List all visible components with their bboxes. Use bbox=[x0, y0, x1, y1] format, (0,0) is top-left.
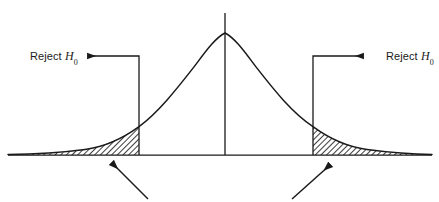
reject-h0-label-left: Reject H0 bbox=[30, 50, 78, 65]
pointer-arrow-right bbox=[292, 165, 330, 199]
reject-h0-label-right: Reject H0 bbox=[386, 50, 434, 65]
reject-label-right-prefix: Reject bbox=[386, 50, 421, 62]
reject-label-left-subscript: 0 bbox=[74, 58, 78, 67]
right-rejection-region bbox=[311, 120, 435, 157]
reject-label-left-prefix: Reject bbox=[30, 50, 65, 62]
figure-root: Reject H0 Reject H0 bbox=[0, 0, 439, 202]
pointer-arrow-left bbox=[112, 163, 148, 199]
reject-label-left-symbol: H bbox=[65, 49, 74, 63]
reject-label-right-subscript: 0 bbox=[430, 58, 434, 67]
normal-distribution-chart bbox=[0, 0, 439, 202]
reject-label-right-symbol: H bbox=[421, 49, 430, 63]
